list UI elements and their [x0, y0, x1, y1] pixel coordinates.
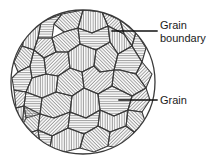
- label-grain-boundary-line2: boundary: [160, 32, 206, 44]
- label-grain-boundary-line1: Grain: [160, 19, 187, 31]
- label-grain: Grain: [160, 94, 187, 106]
- grain-structure-diagram: Grain boundary Grain: [0, 0, 217, 162]
